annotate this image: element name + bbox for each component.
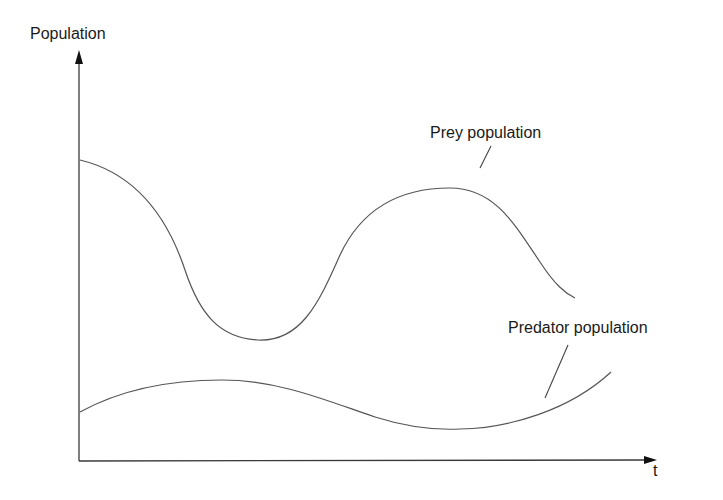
x-axis — [79, 460, 646, 461]
prey-curve — [80, 160, 575, 340]
predator-prey-diagram: Population t Prey population Predator po… — [0, 0, 723, 500]
y-axis-label: Population — [30, 25, 106, 42]
predator-label: Predator population — [508, 319, 648, 336]
x-axis-label: t — [653, 462, 658, 479]
prey-label: Prey population — [430, 124, 541, 141]
diagram-canvas: Population t Prey population Predator po… — [0, 0, 723, 500]
predator-curve — [80, 372, 611, 429]
y-axis-arrow-icon — [75, 50, 83, 64]
prey-leader-line — [480, 146, 491, 168]
predator-leader-line — [545, 345, 568, 398]
